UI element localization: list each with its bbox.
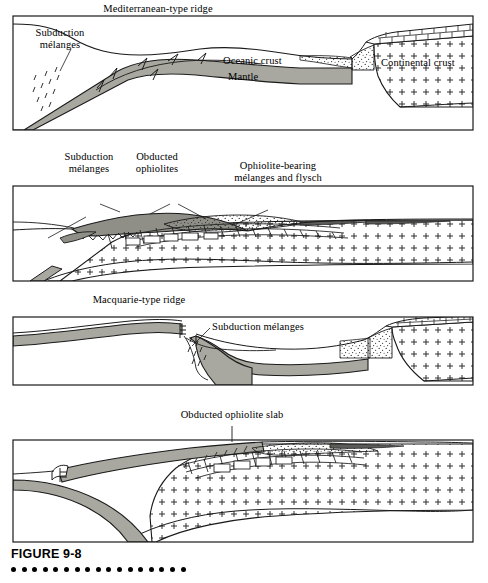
panel-3-ridge-label: Macquarie-type ridge <box>74 294 204 306</box>
caption-dot <box>43 567 48 572</box>
figure-caption-block: FIGURE 9-8 <box>11 547 191 574</box>
caption-dot <box>64 567 69 572</box>
panel-1-continental-crust-label: Continental crust <box>381 57 455 69</box>
panel-1-subduction-melanges-label: Subduction mélanges <box>24 27 96 50</box>
panel-2-obducted-ophiolites-label: Obducted ophiolites <box>126 151 188 174</box>
caption-dot <box>170 567 175 572</box>
caption-dot <box>53 567 58 572</box>
figure-number: FIGURE 9-8 <box>11 547 191 561</box>
caption-dot <box>128 567 133 572</box>
panel-2-subduction-melanges-label: Subduction mélanges <box>52 151 126 174</box>
figure-9-8: Mediterranean-type ridge Subduction méla… <box>0 0 488 583</box>
caption-dot-rule <box>11 565 191 574</box>
caption-dot <box>22 567 27 572</box>
panel-1-oceanic-crust-label: Oceanic crust <box>223 55 282 67</box>
panel-3-subduction-melanges-label: Subduction mélanges <box>212 321 304 333</box>
caption-dot <box>32 567 37 572</box>
caption-dot <box>149 567 154 572</box>
caption-dot <box>85 567 90 572</box>
caption-dot <box>106 567 111 572</box>
caption-dot <box>11 567 16 572</box>
caption-dot <box>159 567 164 572</box>
panel-1-mantle-label: Mantle <box>228 71 258 83</box>
panel-2-diagram <box>0 182 488 286</box>
caption-dot <box>75 567 80 572</box>
panel-4-obducted-ophiolite-slab-label: Obducted ophiolite slab <box>160 409 304 421</box>
caption-dot <box>117 567 122 572</box>
panel-2-ophiolite-bearing-melanges-label: Ophiolite-bearing mélanges and flysch <box>216 160 340 183</box>
caption-dot <box>181 567 186 572</box>
caption-dot <box>96 567 101 572</box>
caption-dot <box>138 567 143 572</box>
panel-4-diagram <box>0 424 488 546</box>
panel-1-ridge-label: Mediterranean-type ridge <box>82 3 234 15</box>
